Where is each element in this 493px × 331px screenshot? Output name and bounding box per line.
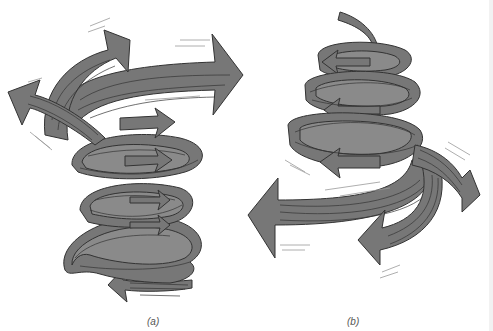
- helix-figure-b: [240, 0, 493, 331]
- panel-label-a: (a): [147, 316, 159, 327]
- page-edge: [489, 0, 493, 331]
- helix-b-illustration: [240, 0, 493, 331]
- panel-label-b: (b): [347, 316, 359, 327]
- helix-a-illustration: [0, 0, 250, 331]
- helix-figure-a: [0, 0, 250, 331]
